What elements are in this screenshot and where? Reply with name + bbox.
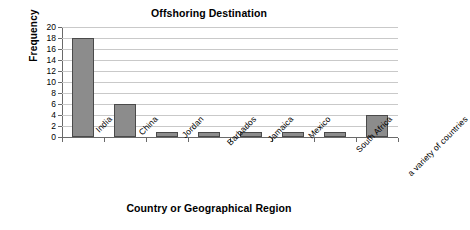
bar — [324, 132, 346, 138]
gridline — [62, 115, 398, 116]
y-tick-mark — [58, 71, 62, 72]
y-tick-mark — [58, 27, 62, 28]
y-tick-label: 2 — [51, 121, 56, 131]
y-tick-mark — [58, 60, 62, 61]
x-tick-mark — [398, 138, 399, 142]
bar — [156, 132, 178, 138]
x-tick-mark — [146, 138, 147, 142]
y-tick-label: 12 — [47, 66, 56, 76]
y-tick-label: 20 — [47, 22, 56, 32]
gridline — [62, 126, 398, 127]
y-tick-mark — [58, 49, 62, 50]
gridline — [62, 27, 398, 28]
x-axis-title: Country or Geographical Region — [0, 202, 418, 214]
y-tick-mark — [58, 93, 62, 94]
gridline — [62, 82, 398, 83]
gridline — [62, 71, 398, 72]
bar — [72, 38, 94, 137]
chart-title: Offshoring Destination — [0, 7, 418, 19]
gridline — [62, 60, 398, 61]
y-tick-label: 8 — [51, 88, 56, 98]
y-tick-mark — [58, 104, 62, 105]
y-tick-mark — [58, 126, 62, 127]
gridline — [62, 38, 398, 39]
y-tick-label: 4 — [51, 110, 56, 120]
y-tick-label: 14 — [47, 55, 56, 65]
y-tick-mark — [58, 82, 62, 83]
gridline — [62, 104, 398, 105]
x-tick-mark — [356, 138, 357, 142]
gridline — [62, 49, 398, 50]
bar — [114, 104, 136, 137]
y-tick-mark — [58, 115, 62, 116]
y-tick-label: 0 — [51, 132, 56, 142]
y-tick-mark — [58, 38, 62, 39]
y-tick-label: 10 — [47, 77, 56, 87]
y-tick-label: 16 — [47, 44, 56, 54]
y-axis-title: Frequency — [28, 0, 39, 91]
x-tick-label: a variety of countries — [406, 114, 470, 178]
x-tick-mark — [62, 138, 63, 142]
x-tick-mark — [104, 138, 105, 142]
gridline — [62, 93, 398, 94]
bar — [198, 132, 220, 138]
bar — [282, 132, 304, 138]
y-tick-label: 18 — [47, 33, 56, 43]
y-tick-label: 6 — [51, 99, 56, 109]
